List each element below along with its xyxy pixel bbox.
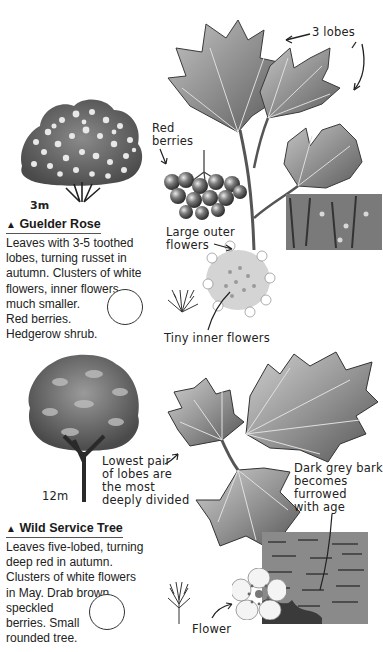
triangle-marker-icon: ▲ bbox=[6, 219, 16, 230]
annotation-dark-grey-bark: Dark grey bark becomes furrowed with age bbox=[294, 462, 383, 514]
guelder-rose-winter-silhouette-icon bbox=[164, 284, 200, 314]
guelder-rose-height-label: 3m bbox=[30, 199, 50, 212]
description-line: Leaves five-lobed, turning bbox=[6, 540, 156, 555]
arrow-icon bbox=[212, 242, 236, 252]
wild-service-winter-silhouette-icon bbox=[166, 578, 192, 624]
guelder-rose-title-text: Guelder Rose bbox=[19, 217, 100, 231]
description-line: Clusters of white flowers bbox=[6, 570, 156, 585]
arrow-icon bbox=[204, 288, 234, 332]
triangle-marker-icon: ▲ bbox=[6, 523, 16, 534]
guelder-rose-title: ▲ Guelder Rose bbox=[6, 217, 101, 234]
wild-service-tree-tick-circle[interactable] bbox=[89, 594, 125, 630]
guelder-rose-shrub-illustration bbox=[14, 92, 148, 204]
guelder-rose-description: Leaves with 3-5 toothed lobes, turning r… bbox=[6, 236, 156, 342]
guelder-rose-tick-circle[interactable] bbox=[107, 289, 143, 325]
arrow-icon bbox=[318, 512, 334, 592]
description-line: Hedgerow shrub. bbox=[6, 327, 156, 342]
description-line: speckled bbox=[6, 601, 156, 616]
description-line: in May. Drab brown, bbox=[6, 586, 156, 601]
arrow-icon bbox=[158, 148, 170, 168]
wild-service-tree-height-label: 12m bbox=[42, 490, 68, 503]
wild-service-tree-leaves-illustration bbox=[160, 350, 382, 550]
arrow-icon bbox=[164, 452, 180, 466]
annotation-tiny-inner-flowers: Tiny inner flowers bbox=[164, 332, 270, 345]
wild-service-flower-illustration bbox=[232, 568, 286, 620]
arrow-icon bbox=[280, 28, 370, 98]
annotation-red-berries: Red berries bbox=[152, 122, 193, 148]
wild-service-tree-description: Leaves five-lobed, turning deep red in a… bbox=[6, 540, 156, 646]
red-berries-illustration bbox=[158, 150, 250, 220]
description-line: deep red in autumn. bbox=[6, 555, 156, 570]
wild-service-tree-title-text: Wild Service Tree bbox=[19, 521, 122, 535]
wild-service-tree-title: ▲ Wild Service Tree bbox=[6, 521, 123, 538]
description-line: Leaves with 3-5 toothed bbox=[6, 236, 156, 251]
description-line: lobes, turning russet in bbox=[6, 251, 156, 266]
description-line: autumn. Clusters of white bbox=[6, 266, 156, 281]
arrow-icon bbox=[210, 602, 234, 620]
annotation-flower: Flower bbox=[192, 623, 231, 636]
description-line: rounded tree. bbox=[6, 631, 156, 646]
description-line: berries. Small bbox=[6, 616, 156, 631]
